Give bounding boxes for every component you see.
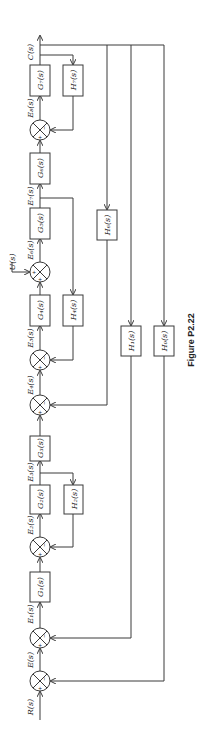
h2-label: H₂(s) [70,489,79,511]
h7-label: H₇(s) [69,70,78,92]
block-diagram: G₁(s) G₂(s) G₃(s) G₄(s) G₅(s) G₆(s) G₇(s… [0,0,205,735]
block-h7: H₇(s) [51,65,83,130]
plus-sign: + [38,364,42,370]
label-e7: E₇(s) [26,186,35,206]
h0-label: H₀(s) [160,331,169,353]
g3-label: G₃(s) [36,438,45,458]
block-g4: G₄(s) [30,295,50,326]
minus-sign: − [41,401,47,405]
figure-caption: Figure P2.22 [186,313,196,367]
label-e3: E₃(s) [26,462,35,482]
block-g3: G₃(s) [30,436,50,461]
minus-sign: − [41,634,47,638]
plus-sign: + [38,551,42,557]
label-e2: E₂(s) [26,515,35,535]
block-h6: H₆(s) [51,45,117,405]
block-g1: G₁(s) [30,572,50,602]
output-branch [40,45,164,64]
plus-sign: + [38,409,42,415]
sum-junction-e5: + − [30,350,50,370]
minus-sign: − [41,356,47,360]
sum-junction-e: + − [30,671,50,691]
plus-sign: + [38,134,42,140]
block-g6: G₆(s) [30,153,50,184]
g2-label: G₂(s) [36,489,45,509]
h4-label: H₄(s) [69,300,78,322]
block-g2: G₂(s) [30,485,50,514]
h6-label: H₆(s) [103,215,112,237]
plus-sign: + [38,685,42,691]
sum-junction-e8: + − [30,120,50,140]
g4-label: G₄(s) [36,300,45,320]
sum-junction-e1: + − [30,628,50,648]
g1-label: G₁(s) [36,577,45,597]
sum-junction-e2: + − [30,537,50,557]
sum-junction-e4: + − [30,395,50,415]
minus-sign: − [41,126,47,130]
h1-label: H₁(s) [127,331,136,353]
label-c: C(s) [26,44,35,60]
plus-sign: + [38,642,42,648]
label-r: R(s) [26,699,35,716]
block-g7: G₇(s) [30,65,50,96]
signal-labels: R(s) E(s) E₁(s) E₂(s) E₃(s) E₄(s) E₅(s) … [8,44,35,716]
label-e1: E₁(s) [26,604,35,624]
g7-label: G₇(s) [36,70,45,90]
label-e4: E₄(s) [26,375,35,395]
label-e6: E₆(s) [26,240,35,260]
sum-junction-e6: + + [30,262,50,282]
g6-label: G₆(s) [36,158,45,178]
g5-label: G₅(s) [36,213,45,233]
plus-sign: + [38,276,42,282]
plus-sign: + [32,269,36,275]
minus-sign: − [41,543,47,547]
label-e: E(s) [26,652,35,669]
minus-sign: − [41,677,47,681]
block-g5: G₅(s) [30,208,50,239]
block-h0: H₀(s) [51,45,174,681]
label-e8: E₈(s) [26,98,35,118]
label-e5: E₅(s) [26,328,35,348]
block-h1: H₁(s) [51,45,141,638]
